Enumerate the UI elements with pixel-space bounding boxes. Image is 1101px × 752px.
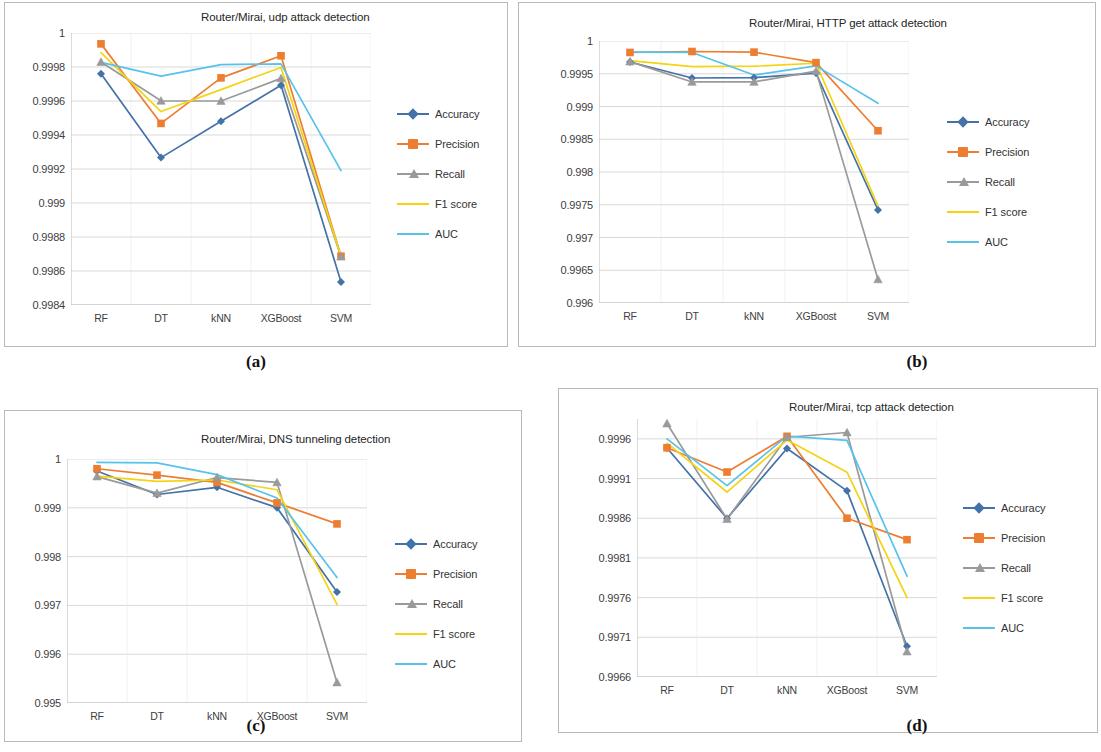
x-axis-tick-label: kNN [744, 310, 764, 322]
chart-legend-a: AccuracyPrecisionRecallF1 scoreAUC [397, 99, 479, 249]
y-axis-tick-label: 0.999 [519, 101, 593, 113]
legend-label: Recall [1001, 562, 1031, 574]
legend-item-recall[interactable]: Recall [963, 553, 1045, 583]
y-axis-tick-label: 0.9998 [5, 61, 65, 73]
y-axis-tick-label: 0.995 [5, 697, 61, 709]
y-axis-tick-label: 0.999 [5, 502, 61, 514]
legend-swatch-icon [947, 146, 979, 158]
y-axis-tick-label: 0.999 [5, 197, 65, 209]
legend-item-accuracy[interactable]: Accuracy [395, 529, 477, 559]
legend-item-f1-score[interactable]: F1 score [397, 189, 479, 219]
x-axis-tick-label: kNN [211, 312, 231, 324]
legend-item-precision[interactable]: Precision [963, 523, 1045, 553]
x-axis-tick-label: RF [94, 312, 108, 324]
plot-area-d [637, 419, 937, 677]
y-axis-tick-label: 1 [5, 453, 61, 465]
legend-label: AUC [435, 228, 458, 240]
legend-item-f1-score[interactable]: F1 score [395, 619, 477, 649]
subfigure-caption-a: (a) [216, 352, 296, 372]
legend-swatch-icon [397, 138, 429, 150]
chart-title-b: Router/Mirai, HTTP get attack detection [749, 17, 947, 29]
y-axis-tick-label: 0.9965 [519, 264, 593, 276]
legend-label: AUC [1001, 622, 1024, 634]
chart-legend-d: AccuracyPrecisionRecallF1 scoreAUC [963, 493, 1045, 643]
legend-item-accuracy[interactable]: Accuracy [397, 99, 479, 129]
legend-swatch-icon [947, 176, 979, 188]
legend-label: Accuracy [433, 538, 477, 550]
y-axis-tick-label: 0.9985 [519, 133, 593, 145]
legend-label: AUC [985, 236, 1008, 248]
legend-item-auc[interactable]: AUC [963, 613, 1045, 643]
legend-swatch-icon [947, 236, 979, 248]
legend-label: Precision [435, 138, 479, 150]
subfigure-caption-b: (b) [877, 352, 957, 372]
plot-area-c [67, 459, 367, 703]
subfigure-caption-d: (d) [877, 716, 957, 736]
legend-item-recall[interactable]: Recall [395, 589, 477, 619]
legend-swatch-icon [395, 628, 427, 640]
legend-swatch-icon [397, 198, 429, 210]
chart-legend-c: AccuracyPrecisionRecallF1 scoreAUC [395, 529, 477, 679]
plot-area-a [71, 33, 371, 305]
legend-item-accuracy[interactable]: Accuracy [947, 107, 1029, 137]
legend-label: F1 score [1001, 592, 1043, 604]
y-axis-tick-label: 0.9971 [559, 631, 631, 643]
legend-swatch-icon [963, 502, 995, 514]
legend-item-f1-score[interactable]: F1 score [963, 583, 1045, 613]
legend-label: F1 score [435, 198, 477, 210]
x-axis-tick-label: RF [623, 310, 637, 322]
chart-panel-c: Router/Mirai, DNS tunneling detection10.… [4, 410, 522, 742]
legend-swatch-icon [397, 168, 429, 180]
x-axis-tick-label: XGBoost [827, 684, 868, 696]
legend-label: Precision [433, 568, 477, 580]
legend-item-precision[interactable]: Precision [947, 137, 1029, 167]
legend-swatch-icon [963, 562, 995, 574]
legend-label: Accuracy [985, 116, 1029, 128]
y-axis-tick-label: 0.9984 [5, 299, 65, 311]
y-axis-tick-label: 0.997 [5, 599, 61, 611]
y-axis-tick-label: 0.9986 [559, 512, 631, 524]
x-axis-tick-label: DT [685, 310, 699, 322]
y-axis-tick-label: 0.998 [519, 166, 593, 178]
y-axis-tick-label: 0.996 [519, 297, 593, 309]
y-axis-tick-label: 0.9992 [5, 163, 65, 175]
legend-item-auc[interactable]: AUC [947, 227, 1029, 257]
x-axis-tick-label: XGBoost [796, 310, 837, 322]
legend-label: Recall [435, 168, 465, 180]
x-axis-tick-label: XGBoost [261, 312, 302, 324]
legend-item-f1-score[interactable]: F1 score [947, 197, 1029, 227]
x-axis-tick-label: RF [90, 710, 104, 722]
legend-swatch-icon [395, 568, 427, 580]
legend-item-precision[interactable]: Precision [395, 559, 477, 589]
y-axis-tick-label: 0.9976 [559, 592, 631, 604]
legend-label: F1 score [985, 206, 1027, 218]
y-axis-tick-label: 0.9991 [559, 473, 631, 485]
legend-swatch-icon [963, 592, 995, 604]
chart-title-d: Router/Mirai, tcp attack detection [789, 401, 954, 413]
legend-item-auc[interactable]: AUC [397, 219, 479, 249]
y-axis-tick-label: 0.9986 [5, 265, 65, 277]
legend-item-precision[interactable]: Precision [397, 129, 479, 159]
legend-item-auc[interactable]: AUC [395, 649, 477, 679]
legend-swatch-icon [395, 598, 427, 610]
y-axis-tick-label: 0.996 [5, 648, 61, 660]
chart-panel-b: Router/Mirai, HTTP get attack detection1… [518, 2, 1096, 347]
legend-item-recall[interactable]: Recall [947, 167, 1029, 197]
legend-swatch-icon [963, 622, 995, 634]
y-axis-tick-label: 0.997 [519, 232, 593, 244]
y-axis-tick-label: 0.9995 [519, 68, 593, 80]
y-axis-tick-label: 0.9996 [559, 433, 631, 445]
chart-legend-b: AccuracyPrecisionRecallF1 scoreAUC [947, 107, 1029, 257]
x-axis-tick-label: RF [660, 684, 674, 696]
y-axis-tick-label: 1 [519, 35, 593, 47]
legend-item-accuracy[interactable]: Accuracy [963, 493, 1045, 523]
subfigure-caption-c: (c) [216, 716, 296, 736]
y-axis-tick-label: 0.998 [5, 551, 61, 563]
legend-swatch-icon [397, 108, 429, 120]
x-axis-tick-label: kNN [777, 684, 797, 696]
legend-item-recall[interactable]: Recall [397, 159, 479, 189]
plot-area-b [599, 41, 909, 303]
y-axis-tick-label: 1 [5, 27, 65, 39]
chart-title-a: Router/Mirai, udp attack detection [201, 11, 370, 23]
legend-label: Recall [985, 176, 1015, 188]
